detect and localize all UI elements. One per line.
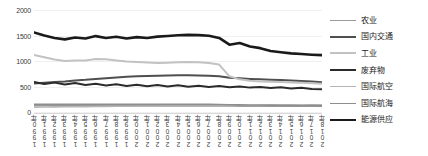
legend-item-label: 国内交通 <box>361 32 393 41</box>
y-axis: 0500100015002000 <box>0 10 31 112</box>
x-axis-tick-label: 2009年 <box>226 115 233 148</box>
series-line <box>34 32 322 55</box>
x-axis-tick-label: 2003年 <box>164 115 171 148</box>
legend-swatch-icon <box>330 103 356 104</box>
x-axis-tick-label: 1991年 <box>41 115 48 148</box>
x-axis-tick-label: 2010年 <box>236 115 243 148</box>
x-axis-tick-label: 2017年 <box>308 115 315 148</box>
plot-area <box>34 10 322 112</box>
x-axis-tick-label: 1990年 <box>31 115 38 148</box>
legend-swatch-icon <box>330 36 356 38</box>
chart-legend: 农业国内交通工业废弃物国际航空国际航海能源供应 <box>330 12 426 128</box>
x-axis-tick-label: 1996年 <box>92 115 99 148</box>
legend-item[interactable]: 国内交通 <box>330 29 426 46</box>
legend-swatch-icon <box>330 86 356 87</box>
x-axis-tick-label: 2007年 <box>205 115 212 148</box>
x-axis-tick-label: 2015年 <box>288 115 295 148</box>
series-lines <box>34 10 322 112</box>
x-axis-tick-label: 1997年 <box>103 115 110 148</box>
x-axis-tick-label: 1994年 <box>72 115 79 148</box>
legend-swatch-icon <box>330 52 356 54</box>
x-axis-tick-label: 2012年 <box>257 115 264 148</box>
legend-item[interactable]: 能源供应 <box>330 112 426 129</box>
x-axis-tick-label: 2008年 <box>216 115 223 148</box>
x-axis-tick-label: 2005年 <box>185 115 192 148</box>
legend-swatch-icon <box>330 119 356 121</box>
legend-item-label: 农业 <box>361 16 377 25</box>
legend-item-label: 国际航海 <box>361 99 393 108</box>
legend-item[interactable]: 国际航空 <box>330 78 426 95</box>
legend-item-label: 废弃物 <box>361 66 385 75</box>
legend-swatch-icon <box>330 20 356 21</box>
y-axis-tick-label: 1000 <box>16 58 31 65</box>
x-axis-tick-label: 2013年 <box>267 115 274 148</box>
x-axis-tick-label: 1995年 <box>82 115 89 148</box>
legend-swatch-icon <box>330 69 356 71</box>
y-axis-tick-label: 1500 <box>16 32 31 39</box>
x-axis-tick-label: 2016年 <box>298 115 305 148</box>
x-axis-tick-label: 2014年 <box>277 115 284 148</box>
x-axis-tick-label: 2002年 <box>154 115 161 148</box>
y-axis-tick-label: 2000 <box>16 7 31 14</box>
x-axis-tick-label: 2004年 <box>175 115 182 148</box>
y-axis-tick-label: 500 <box>20 83 31 90</box>
legend-item[interactable]: 废弃物 <box>330 62 426 79</box>
x-axis-tick-label: 1999年 <box>123 115 130 148</box>
x-axis-tick-label: 2006年 <box>195 115 202 148</box>
x-axis: 1990年1991年1992年1993年1994年1995年1996年1997年… <box>34 113 322 156</box>
legend-item[interactable]: 国际航海 <box>330 95 426 112</box>
x-axis-tick-label: 2000年 <box>133 115 140 148</box>
x-axis-tick-label: 2001年 <box>144 115 151 148</box>
legend-item[interactable]: 工业 <box>330 45 426 62</box>
legend-item-label: 工业 <box>361 49 377 58</box>
legend-item-label: 国际航空 <box>361 82 393 91</box>
x-axis-tick-label: 2011年 <box>247 115 254 148</box>
legend-item[interactable]: 农业 <box>330 12 426 29</box>
x-axis-tick-label: 2018年 <box>319 115 326 148</box>
x-axis-tick-label: 1992年 <box>51 115 58 148</box>
x-axis-tick-label: 1993年 <box>61 115 68 148</box>
x-axis-tick-label: 1998年 <box>113 115 120 148</box>
chart-screenshot: 0500100015002000 1990年1991年1992年1993年199… <box>0 0 428 156</box>
legend-item-label: 能源供应 <box>361 115 393 124</box>
